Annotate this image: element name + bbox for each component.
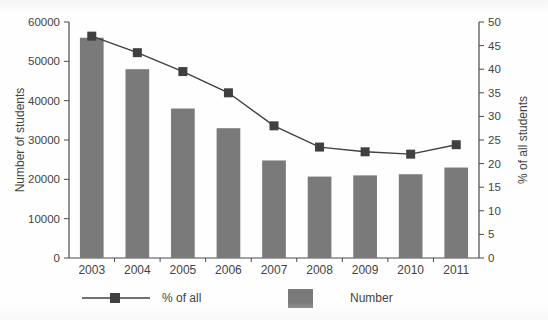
y-axis-left-tick-label: 60000 — [28, 16, 60, 28]
y-axis-left-tick-label: 30000 — [28, 134, 60, 146]
x-axis-tick-label: 2008 — [306, 263, 333, 277]
y-axis-right-tick-label: 40 — [488, 63, 501, 75]
legend-item-bar[interactable]: Number — [288, 289, 393, 308]
y-axis-right-title: % of all students — [516, 96, 530, 184]
legend-line-marker — [110, 293, 120, 303]
line-marker — [315, 143, 324, 152]
dual-axis-chart: 0100002000030000400005000060000 05101520… — [0, 0, 548, 320]
line-marker — [178, 67, 187, 76]
y-axis-left-tick-label: 10000 — [28, 213, 60, 225]
legend-label-bar: Number — [350, 291, 393, 305]
y-axis-right-tick-label: 15 — [488, 181, 501, 193]
y-axis-right-tick-label: 10 — [488, 205, 501, 217]
line-marker — [270, 121, 279, 130]
x-axis-labels: 200320042005200620072008200920102011 — [78, 263, 469, 277]
line-marker — [361, 147, 370, 156]
x-axis-tick-label: 2006 — [215, 263, 242, 277]
y-axis-left-ticks: 0100002000030000400005000060000 — [28, 16, 69, 264]
y-axis-right-ticks: 05101520253035404550 — [479, 16, 501, 264]
y-axis-left-tick-label: 0 — [54, 252, 60, 264]
line-marker — [452, 140, 461, 149]
x-axis-tick-label: 2003 — [78, 263, 105, 277]
y-axis-right-tick-label: 30 — [488, 110, 501, 122]
bar — [353, 175, 377, 258]
legend: % of all Number — [82, 289, 393, 308]
legend-bar-swatch — [288, 289, 313, 308]
bar — [399, 174, 423, 258]
line-marker — [133, 48, 142, 57]
chart-title — [150, 0, 420, 8]
chart-container: 0100002000030000400005000060000 05101520… — [0, 0, 548, 320]
y-axis-right-tick-label: 20 — [488, 158, 501, 170]
y-axis-left-tick-label: 20000 — [28, 173, 60, 185]
line-marker — [406, 150, 415, 159]
line-marker — [87, 32, 96, 41]
bar — [171, 109, 195, 258]
y-axis-right-tick-label: 50 — [488, 16, 501, 28]
y-axis-left-tick-label: 50000 — [28, 55, 60, 67]
y-axis-left-title: Number of students — [13, 88, 27, 193]
bar-series — [80, 38, 468, 258]
x-axis-tick-label: 2010 — [397, 263, 424, 277]
bar — [308, 177, 332, 258]
bar — [444, 168, 468, 258]
y-axis-right-tick-label: 45 — [488, 40, 501, 52]
x-axis-tick-label: 2004 — [124, 263, 151, 277]
y-axis-right-tick-label: 5 — [488, 228, 494, 240]
line-marker — [224, 88, 233, 97]
x-axis-tick-label: 2005 — [170, 263, 197, 277]
y-axis-left-tick-label: 40000 — [28, 95, 60, 107]
bar — [262, 160, 286, 258]
y-axis-right-tick-label: 0 — [488, 252, 494, 264]
legend-item-line[interactable]: % of all — [82, 291, 201, 305]
bar — [80, 38, 104, 258]
y-axis-right-tick-label: 35 — [488, 87, 501, 99]
legend-label-line: % of all — [162, 291, 201, 305]
bar — [125, 69, 149, 258]
bar — [217, 128, 241, 258]
y-axis-right-tick-label: 25 — [488, 134, 501, 146]
x-axis-tick-label: 2011 — [443, 263, 469, 277]
x-axis-tick-label: 2007 — [261, 263, 288, 277]
x-axis-tick-label: 2009 — [352, 263, 379, 277]
